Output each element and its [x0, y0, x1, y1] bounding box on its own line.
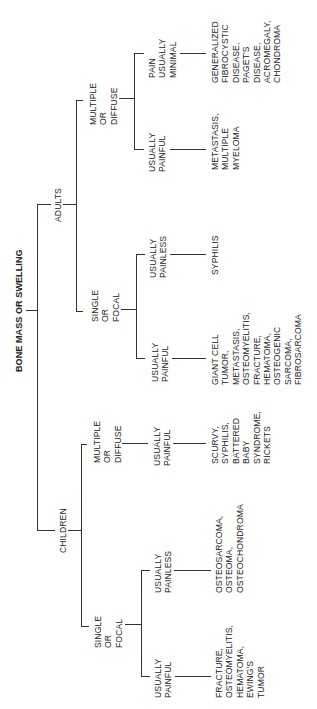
connector: [170, 149, 206, 150]
bone-mass-decision-tree: BONE MASS OR SWELLING ADULTS MULTIPLE OR…: [0, 0, 317, 709]
node-children-single-usually-painful: USUALLY PAINFUL: [153, 659, 174, 698]
connector: [134, 53, 144, 54]
connector: [141, 570, 142, 677]
connector: [37, 204, 51, 205]
node-adults-multiple-diffuse: MULTIPLE OR DIFFUSE: [88, 83, 119, 125]
leaf-children-single-painful: FRACTURE, OSTEOMYELITIS, HEMATOMA, EWING…: [214, 625, 266, 698]
connector: [76, 100, 77, 312]
connector: [119, 98, 134, 99]
node-adults-single-usually-painful: USUALLY PAINFUL: [150, 343, 171, 382]
connector: [134, 53, 135, 150]
connector: [141, 570, 150, 571]
connector: [175, 676, 211, 677]
node-adults-multi-pain-minimal: PAIN USUALLY MINIMAL: [147, 39, 178, 78]
root-title: BONE MASS OR SWELLING: [14, 249, 24, 372]
connector: [37, 204, 38, 531]
connector: [125, 624, 141, 625]
connector: [172, 358, 206, 359]
connector: [134, 149, 144, 150]
connector: [173, 443, 206, 444]
leaf-children-multi-painful: SCURVY, SYPHILIS, BATTERED BABY SYNDROME…: [210, 411, 272, 464]
connector: [136, 254, 137, 359]
connector: [121, 309, 136, 310]
connector: [136, 254, 145, 255]
connector: [174, 570, 211, 571]
node-children: CHILDREN: [58, 508, 68, 553]
node-children-multi-usually-painful: USUALLY PAINFUL: [152, 427, 173, 466]
connector: [68, 530, 81, 531]
connector: [37, 530, 55, 531]
node-adults-single-focal: SINGLE OR FOCAL: [90, 290, 121, 322]
leaf-adults-single-painless: SYPHILIS: [210, 236, 220, 276]
connector: [170, 254, 206, 255]
node-adults: ADULTS: [53, 188, 63, 222]
connector: [63, 204, 77, 205]
node-children-multiple-diffuse: MULTIPLE OR DIFFUSE: [92, 421, 123, 463]
node-adults-multi-usually-painful: USUALLY PAINFUL: [147, 133, 168, 172]
leaf-adults-single-painful: GIANT CELL TUMOR, METASTASIS, OSTEOMYELI…: [210, 312, 304, 385]
connector: [122, 443, 148, 444]
node-children-single-usually-painless: USUALLY PAINLESS: [153, 551, 174, 593]
connector: [81, 444, 82, 627]
node-adults-single-usually-painless: USUALLY PAINLESS: [148, 236, 169, 278]
connector: [76, 100, 83, 101]
connector: [81, 444, 87, 445]
connector: [76, 311, 83, 312]
leaf-adults-multi-minimal: GENERALIZED FIBROCYSTIC DISEASE, PAGET'S…: [210, 21, 283, 83]
leaf-children-single-painless: OSTEOSARCOMA, OSTEOMA, OSTEOCHONDROMA: [214, 504, 245, 593]
leaf-adults-multi-painful: METASTASIS, MULTIPLE MYELOMA: [210, 113, 241, 170]
node-children-single-focal: SINGLE OR FOCAL: [93, 616, 124, 648]
connector: [136, 358, 145, 359]
connector: [180, 53, 206, 54]
connector: [141, 676, 150, 677]
connector: [81, 626, 89, 627]
